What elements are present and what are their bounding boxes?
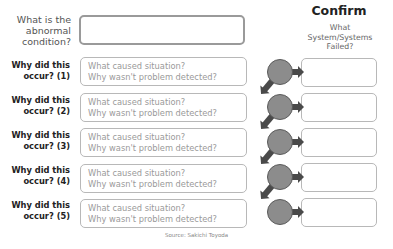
flow-diagram (0, 0, 393, 249)
step-circle-3 (268, 130, 293, 155)
source-caption: Source: Sakichi Toyoda (165, 232, 228, 238)
step-circle-5 (268, 200, 293, 225)
step-circle-1 (268, 60, 293, 85)
step-circle-2 (268, 95, 293, 120)
step-circle-4 (268, 165, 293, 190)
